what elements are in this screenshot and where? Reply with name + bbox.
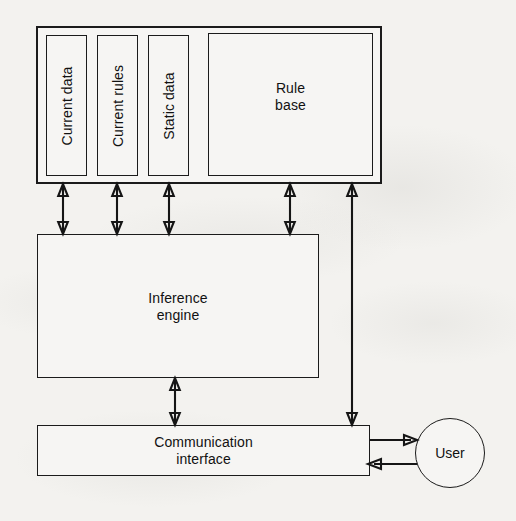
node-inference-engine[interactable]: Inference engine (37, 234, 319, 378)
arrow-knowledge-base-communication-interface (347, 184, 357, 425)
node-current-rules[interactable]: Current rules (97, 35, 138, 176)
node-rule-base[interactable]: Rule base (208, 33, 373, 176)
node-communication-interface-label: Communication interface (38, 434, 369, 468)
node-current-rules-label: Current rules (110, 64, 126, 146)
arrow-inference-engine-communication-interface (170, 378, 180, 425)
arrow-rule-base-inference-engine (285, 184, 295, 234)
arrow-current-rules-inference-engine (112, 184, 122, 234)
node-user-label: User (435, 445, 465, 461)
node-user[interactable]: User (415, 418, 485, 488)
node-inference-engine-label: Inference engine (38, 290, 318, 324)
node-communication-interface[interactable]: Communication interface (37, 425, 370, 476)
node-rule-base-label: Rule base (209, 80, 372, 114)
node-static-data[interactable]: Static data (148, 35, 189, 176)
node-current-data[interactable]: Current data (46, 35, 87, 176)
arrow-communication-interface-to-user (370, 435, 417, 445)
node-current-data-label: Current data (59, 66, 75, 145)
arrow-user-to-communication-interface (368, 459, 417, 469)
arrow-current-data-inference-engine (58, 184, 68, 234)
arrow-static-data-inference-engine (164, 184, 174, 234)
node-static-data-label: Static data (161, 72, 177, 139)
diagram-canvas: Current data Current rules Static data R… (0, 0, 516, 521)
